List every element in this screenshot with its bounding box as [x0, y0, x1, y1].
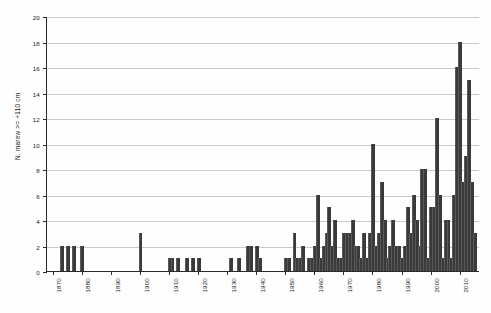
- chart-container: N. marew >= +110 cm 02468101214161820 18…: [0, 0, 491, 313]
- x-axis-tick-label: 1980: [375, 278, 382, 293]
- y-axis-tick: [43, 43, 47, 44]
- x-axis-tick: [256, 271, 257, 275]
- x-axis-tick: [314, 271, 315, 275]
- bar: [176, 258, 180, 271]
- bar: [249, 246, 253, 272]
- x-axis-tick-label: 1870: [55, 278, 62, 293]
- bar: [287, 258, 291, 271]
- gridline: [47, 94, 479, 95]
- bar: [473, 233, 477, 271]
- y-axis-tick: [43, 221, 47, 222]
- y-axis-tick-label: 16: [33, 65, 40, 72]
- x-axis-tick-label: 2010: [462, 278, 469, 293]
- y-axis-tick-label: 0: [36, 269, 40, 276]
- x-axis-tick: [460, 271, 461, 275]
- bar: [191, 258, 195, 271]
- y-axis-tick: [43, 196, 47, 197]
- y-axis-tick-label: 18: [33, 39, 40, 46]
- gridline: [47, 170, 479, 171]
- y-axis-tick: [43, 170, 47, 171]
- y-axis-tick-label: 12: [33, 116, 40, 123]
- x-axis-tick-label: 1970: [346, 278, 353, 293]
- bar: [60, 246, 64, 272]
- x-axis-tick-label: 1930: [230, 278, 237, 293]
- bar: [66, 246, 70, 272]
- y-axis-tick-label: 4: [36, 218, 40, 225]
- y-axis-tick: [43, 145, 47, 146]
- x-axis-tick: [53, 271, 54, 275]
- x-axis-tick: [111, 271, 112, 275]
- bar: [171, 258, 175, 271]
- x-axis-tick: [227, 271, 228, 275]
- y-axis-tick-label: 2: [36, 243, 40, 250]
- y-axis-tick: [43, 119, 47, 120]
- bar: [197, 258, 201, 271]
- y-axis-tick: [43, 272, 47, 273]
- x-axis-tick: [140, 271, 141, 275]
- y-axis-tick-label: 6: [36, 192, 40, 199]
- y-axis-tick-label: 8: [36, 167, 40, 174]
- x-axis-tick-label: 1920: [201, 278, 208, 293]
- x-axis-tick-label: 1900: [143, 278, 150, 293]
- y-axis-tick: [43, 17, 47, 18]
- bar: [423, 169, 427, 271]
- bar: [301, 246, 305, 272]
- bar: [80, 246, 84, 272]
- y-axis-tick: [43, 68, 47, 69]
- bar: [229, 258, 233, 271]
- x-axis-tick: [402, 271, 403, 275]
- y-axis-tick: [43, 247, 47, 248]
- x-axis-tick-label: 2000: [433, 278, 440, 293]
- y-axis-tick: [43, 94, 47, 95]
- x-axis-tick: [285, 271, 286, 275]
- x-axis-tick-label: 1890: [114, 278, 121, 293]
- y-axis-tick-label: 10: [33, 141, 40, 148]
- gridline: [47, 145, 479, 146]
- gridline: [47, 68, 479, 69]
- x-axis-tick-label: 1880: [84, 278, 91, 293]
- bar: [258, 258, 262, 271]
- bar: [72, 246, 76, 272]
- gridline: [47, 119, 479, 120]
- x-axis-tick-label: 1940: [259, 278, 266, 293]
- x-axis-tick-label: 1990: [404, 278, 411, 293]
- y-axis-tick-label: 14: [33, 90, 40, 97]
- y-axis-title: N. marew >= +110 cm: [14, 93, 21, 160]
- bar: [185, 258, 189, 271]
- x-axis-tick-label: 1960: [317, 278, 324, 293]
- bar: [139, 233, 143, 271]
- gridline: [47, 17, 479, 18]
- y-axis-tick-label: 20: [33, 14, 40, 21]
- bar: [237, 258, 241, 271]
- x-axis-tick: [431, 271, 432, 275]
- plot-area: 02468101214161820 1870188018901900191019…: [46, 17, 479, 272]
- x-axis-tick: [82, 271, 83, 275]
- x-axis-tick: [372, 271, 373, 275]
- x-axis-tick: [343, 271, 344, 275]
- gridline: [47, 43, 479, 44]
- x-axis-tick: [169, 271, 170, 275]
- x-axis-tick-label: 1950: [288, 278, 295, 293]
- x-axis-tick: [198, 271, 199, 275]
- x-axis-tick-label: 1910: [172, 278, 179, 293]
